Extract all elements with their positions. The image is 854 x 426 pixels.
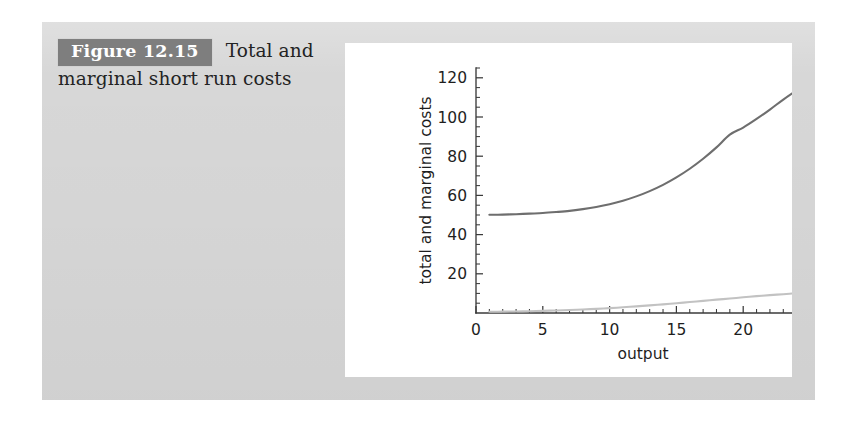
x-tick-label: 20 <box>733 321 753 339</box>
figure-caption-block: Figure 12.15Total andmarginal short run … <box>58 38 358 92</box>
figure-caption-line-1: Total and <box>226 40 314 61</box>
x-tick-label: 5 <box>538 321 548 339</box>
y-tick-label: 100 <box>437 109 467 127</box>
chart-series-group <box>489 82 792 312</box>
chart-axes <box>476 68 792 313</box>
figure-panel: Figure 12.15Total andmarginal short run … <box>42 22 815 400</box>
x-axis-tick-labels: 0510152025 <box>471 321 792 339</box>
y-tick-label: 20 <box>447 265 467 283</box>
y-tick-label: 80 <box>447 148 467 166</box>
y-axis-title: total and marginal costs <box>417 96 435 284</box>
y-tick-label: 120 <box>437 69 467 87</box>
series-curve-marginal-cost <box>489 292 792 311</box>
series-curve-total-cost <box>489 82 792 215</box>
chart-card: 20406080100120 0510152025 output total a… <box>345 43 792 377</box>
y-axis-tick-labels: 20406080100120 <box>437 69 467 283</box>
x-tick-label: 15 <box>667 321 687 339</box>
x-tick-label: 10 <box>600 321 620 339</box>
figure-number-badge: Figure 12.15 <box>58 39 212 66</box>
figure-caption-line-2: marginal short run costs <box>58 68 292 89</box>
y-tick-label: 60 <box>447 187 467 205</box>
y-axis-ticks <box>476 68 483 303</box>
x-axis-title: output <box>617 345 668 363</box>
y-tick-label: 40 <box>447 226 467 244</box>
x-tick-label: 0 <box>471 321 481 339</box>
cost-curves-chart: 20406080100120 0510152025 output total a… <box>345 43 792 377</box>
